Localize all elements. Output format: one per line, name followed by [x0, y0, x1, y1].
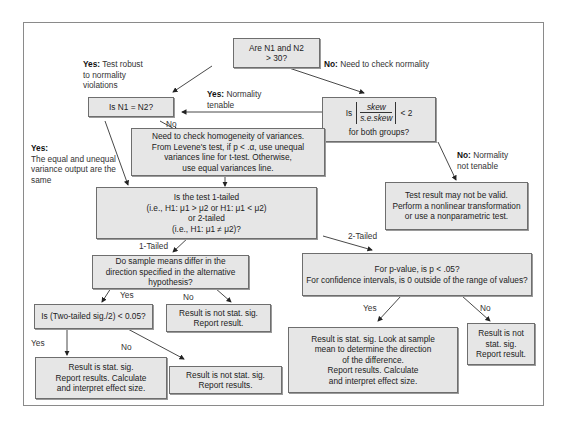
label-text: Normality: [471, 150, 508, 160]
label-bold: Yes:: [83, 59, 100, 69]
label-no-not-tenable: No: Normality not tenable: [457, 150, 508, 171]
node-text: mean to determine the direction: [315, 344, 432, 355]
label-text: not tenable: [457, 161, 498, 171]
node-text: Report results. Calculate: [328, 365, 419, 376]
skew-denominator: s.e.skew: [360, 113, 392, 124]
label-text: same: [31, 175, 51, 185]
label-text: tenable: [207, 100, 234, 110]
node-text: Report result.: [476, 349, 526, 360]
node-equal-n-question: Is N1 = N2?: [88, 97, 174, 117]
node-text: of the difference.: [342, 355, 404, 366]
skew-formula: Is skew s.e.skew < 2: [346, 102, 413, 124]
node-text: (i.e., H1: μ1 ≠ μ2)?: [172, 224, 241, 235]
label-text: Test robust: [100, 59, 143, 69]
node-text: direction specified in the alternative: [106, 267, 236, 278]
node-levene: Need to check homogeneity of variances. …: [131, 128, 325, 176]
node-text: and interpret effect size.: [57, 383, 145, 394]
node-text: For p-value, is p < .05?: [374, 264, 459, 275]
label-text: Normality: [224, 89, 261, 99]
node-text: Perform a nonlinear transformation: [392, 201, 520, 212]
node-text: Is the test 1-tailed: [174, 192, 240, 203]
label-text: The equal and unequal: [31, 154, 116, 164]
node-text: (i.e., H1: μ1 > μ2 or H1: μ1 < μ2): [146, 203, 266, 214]
label-text: to normality: [83, 70, 126, 80]
label-no-half-sig: No: [121, 342, 132, 353]
label-no-p: No: [480, 303, 491, 314]
label-yes-direction: Yes: [120, 290, 134, 301]
node-text: > 30?: [266, 53, 287, 64]
skew-numerator: skew: [360, 102, 392, 114]
node-text: or 2-tailed: [188, 213, 225, 224]
label-no-direction: No: [183, 292, 194, 303]
node-half-sig-question: Is (Two-tailed sig./2) < 0.05?: [34, 304, 153, 329]
node-text: and interpret effect size.: [329, 376, 417, 387]
node-text: stat. sig.: [486, 339, 517, 350]
node-not-sig-2: Result is not stat. sig. Report results.: [169, 366, 282, 394]
node-text: Result is not stat. sig.: [179, 308, 258, 319]
node-not-sig-3: Result is not stat. sig. Report result.: [467, 323, 535, 365]
node-not-sig-1: Result is not stat. sig. Report result.: [166, 304, 271, 332]
node-text: For confidence intervals, is 0 outside o…: [306, 275, 527, 286]
node-text: Report results. Calculate: [56, 373, 147, 384]
node-direction-question: Do sample means differ in the direction …: [92, 255, 249, 289]
label-bold: Yes:: [207, 89, 224, 99]
node-tails-question: Is the test 1-tailed (i.e., H1: μ1 > μ2 …: [96, 187, 317, 239]
node-text: Is N1 = N2?: [109, 102, 153, 113]
node-text: use equal variances line.: [182, 163, 273, 174]
node-sample-size-question: Are N1 and N2 > 30?: [233, 38, 320, 68]
node-text: Result is not: [478, 328, 524, 339]
label-yes-same-output: Yes: The equal and unequal variance outp…: [31, 143, 116, 185]
label-bold: No:: [324, 59, 338, 69]
node-text: Result is not stat. sig.: [186, 370, 265, 381]
node-two-tailed-question: For p-value, is p < .05? For confidence …: [302, 253, 532, 296]
node-text: Need to check homogeneity of variances.: [152, 131, 304, 142]
skew-prefix: Is: [346, 108, 352, 119]
node-text: variances line for t-test. Otherwise,: [164, 152, 292, 163]
node-text: From Levene's test, if p < .α, use unequ…: [152, 142, 304, 153]
skew-fraction: skew s.e.skew: [356, 102, 396, 124]
node-sig-2: Result is stat. sig. Look at sample mean…: [288, 327, 458, 393]
label-no-equal-n: No: [166, 119, 177, 130]
label-two-tailed: 2-Tailed: [348, 231, 377, 242]
node-text: Report result.: [194, 318, 244, 329]
label-bold: No:: [457, 150, 471, 160]
node-text: Are N1 and N2: [249, 43, 304, 54]
label-yes-tenable: Yes: Normality tenable: [207, 89, 261, 110]
node-text: hypothesis?: [148, 277, 192, 288]
node-text: Do sample means differ in the: [115, 256, 225, 267]
node-sig-1: Result is stat. sig. Report results. Cal…: [35, 357, 167, 399]
node-text: for both groups?: [349, 127, 409, 138]
label-one-tailed: 1-Tailed: [139, 241, 168, 252]
label-text: variance output are the: [31, 164, 116, 174]
node-text: Result is stat. sig.: [68, 362, 133, 373]
label-text: Need to check normality: [338, 59, 429, 69]
label-yes-half-sig: Yes: [31, 338, 45, 349]
label-no-check-normality: No: Need to check normality: [324, 59, 429, 70]
node-text: Test result may not be valid.: [405, 190, 508, 201]
node-invalid-result: Test result may not be valid. Perform a …: [385, 182, 528, 230]
label-yes-p: Yes: [363, 303, 377, 314]
label-bold: Yes:: [31, 143, 48, 153]
node-text: Result is stat. sig. Look at sample: [311, 334, 435, 345]
label-yes-robust: Yes: Test robust to normality violations: [83, 59, 143, 91]
node-skew-question: Is skew s.e.skew < 2 for both groups?: [322, 97, 436, 142]
label-text: violations: [83, 80, 118, 90]
skew-suffix: < 2: [400, 108, 412, 119]
node-text: Report results.: [199, 380, 253, 391]
node-text: or use a nonparametric test.: [405, 211, 508, 222]
node-text: Is (Two-tailed sig./2) < 0.05?: [41, 311, 145, 322]
